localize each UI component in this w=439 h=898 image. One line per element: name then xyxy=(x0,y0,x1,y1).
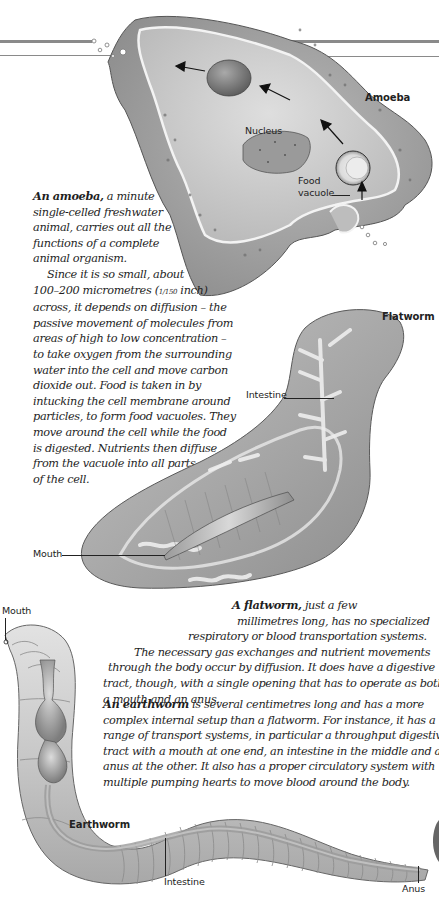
earthworm-mouth-label: Mouth xyxy=(2,605,31,616)
earthworm-anus-leader xyxy=(418,866,419,883)
earthworm-intestine-label: Intestine xyxy=(164,876,205,887)
earthworm-mouth-leader xyxy=(5,618,6,640)
earthworm-intestine-leader xyxy=(165,838,166,876)
earthworm-anus-label: Anus xyxy=(402,883,425,894)
earthworm-text-line: anus at the other. It also has a proper … xyxy=(103,759,439,775)
earthworm-text-line-1: An earthworm is several centimetres long… xyxy=(103,697,439,713)
earthworm-title: Earthworm xyxy=(69,819,130,830)
earthworm-description: An earthworm is several centimetres long… xyxy=(103,697,439,791)
earthworm-lead: An earthworm xyxy=(103,697,189,711)
earthworm-text-line: complex internal setup than a flatworm. … xyxy=(103,713,439,729)
earthworm-text-line: range of transport systems, in particula… xyxy=(103,728,439,744)
earthworm-text-line: tract with a mouth at one end, an intest… xyxy=(103,744,439,760)
earthworm-text-line: multiple pumping hearts to move blood ar… xyxy=(103,775,439,791)
